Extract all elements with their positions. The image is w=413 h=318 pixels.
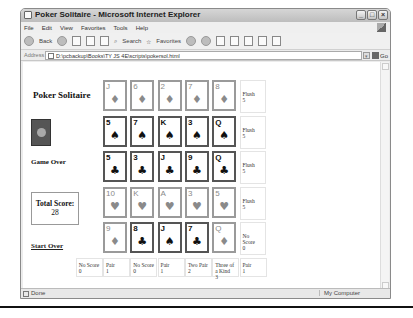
card-r5-c3[interactable]: J♠ [158,222,182,253]
card-r2-c1[interactable]: 5♠ [103,116,127,147]
close-button[interactable]: × [378,10,388,20]
row-score-value: 5 [243,133,263,139]
card-suit-icon: ♠ [132,130,152,141]
card-r2-c4[interactable]: 3♠ [185,116,209,147]
refresh-icon[interactable] [86,36,95,46]
total-score-label: Total Score: [36,199,75,208]
column-score-cell: Pair1 [158,258,185,277]
menu-view[interactable]: View [60,25,73,31]
card-r5-c2[interactable]: 8♣ [130,222,154,253]
card-r5-c4[interactable]: 7♣ [185,222,209,253]
card-r2-c2[interactable]: 7♠ [130,116,154,147]
card-r3-c3[interactable]: J♣ [158,151,182,182]
column-score-cell: Two Pair2 [185,258,212,277]
search-button[interactable]: Search [122,38,141,44]
discuss-icon[interactable] [244,36,253,46]
card-r1-c5[interactable]: 8♦ [212,80,236,111]
column-score-name: Two Pair [188,262,209,268]
menu-bar: File Edit View Favorites Tools Help [21,22,390,33]
card-r1-c3[interactable]: 2♦ [158,80,182,111]
column-score-name: Three of a Kind [215,262,236,274]
card-r4-c1[interactable]: 10♥ [103,187,127,218]
card-r5-c1[interactable]: 9♦ [103,222,127,253]
address-label: Address [24,52,44,58]
card-rank: Q [215,118,221,127]
favorites-icon[interactable]: ☆ [146,38,151,45]
card-rank: 8 [215,82,219,91]
vertical-scrollbar[interactable] [380,62,389,290]
row-score-cell: Flush5 [240,80,266,113]
title-bar[interactable]: Poker Solitaire - Microsoft Internet Exp… [21,9,390,22]
favorites-button[interactable]: Favorites [156,38,181,44]
card-suit-icon: ♥ [214,201,234,212]
card-r4-c4[interactable]: 3♥ [185,187,209,218]
card-r3-c1[interactable]: 5♣ [103,151,127,182]
print-icon[interactable] [216,36,225,46]
address-input[interactable]: D:\pcbackup\Books\TY JS 4E\scripts\poker… [45,51,362,60]
card-r1-c4[interactable]: 7♦ [185,80,209,111]
card-r1-c2[interactable]: 6♦ [130,80,154,111]
column-score-value: 2 [188,268,209,274]
browser-window: Poker Solitaire - Microsoft Internet Exp… [20,8,391,299]
windows-logo-icon [377,23,386,32]
card-suit-icon: ♠ [160,130,180,141]
card-r1-c1[interactable]: J♦ [103,80,127,111]
address-dropdown-icon[interactable]: ▾ [363,52,370,59]
card-rank: 10 [106,189,115,198]
research-icon[interactable] [258,36,267,46]
column-score-cell: Pair1 [240,258,267,277]
column-score-cell: Three of a Kind3 [212,258,239,277]
minimize-button[interactable]: _ [356,10,366,20]
row-score-value: 5 [243,97,263,103]
search-icon[interactable]: ⌕ [114,38,117,45]
forward-icon[interactable] [57,36,67,46]
card-r4-c3[interactable]: A♥ [158,187,182,218]
card-r4-c5[interactable]: 5♥ [212,187,236,218]
status-bar: Done My Computer [21,288,390,298]
divider-line [0,306,413,308]
card-suit-icon: ♠ [214,130,234,141]
row-score-value: 5 [243,204,263,210]
messenger-icon[interactable] [272,36,281,46]
card-r4-c2[interactable]: K♥ [130,187,154,218]
menu-favorites[interactable]: Favorites [81,25,106,31]
total-score-value: 28 [32,208,78,217]
maximize-button[interactable]: □ [367,10,377,20]
start-over-link[interactable]: Start Over [31,242,63,250]
back-button[interactable]: Back [39,38,52,44]
row-score-cell: No Score0 [240,222,266,255]
menu-tools[interactable]: Tools [114,25,128,31]
row-score-cell: Flush5 [240,151,266,184]
security-zone: My Computer [319,290,360,296]
column-score-value: 0 [79,268,100,274]
card-rank: 3 [188,189,192,198]
history-icon[interactable] [186,36,196,46]
go-label: Go [380,53,388,59]
card-rank: 3 [133,153,137,162]
menu-help[interactable]: Help [136,25,148,31]
window-title: Poker Solitaire - Microsoft Internet Exp… [35,10,200,19]
card-r3-c4[interactable]: 9♣ [185,151,209,182]
stop-icon[interactable] [72,36,81,46]
card-suit-icon: ♦ [214,94,234,105]
card-r3-c5[interactable]: Q♣ [212,151,236,182]
card-rank: 5 [215,189,219,198]
row-score-name: No Score [243,233,263,245]
card-r3-c2[interactable]: 3♣ [130,151,154,182]
card-suit-icon: ♣ [132,165,152,176]
card-r5-c5[interactable]: Q♦ [212,222,236,253]
card-r2-c5[interactable]: Q♠ [212,116,236,147]
scroll-up-icon[interactable] [382,63,389,70]
card-r2-c3[interactable]: K♠ [158,116,182,147]
edit-icon[interactable] [230,36,239,46]
mail-icon[interactable] [201,36,211,46]
row-score-cell: Flush5 [240,187,266,220]
home-icon[interactable] [100,36,109,46]
go-button[interactable]: Go [372,52,388,59]
card-rank: J [106,82,110,91]
menu-edit[interactable]: Edit [42,25,52,31]
menu-file[interactable]: File [24,25,34,31]
card-suit-icon: ♦ [132,94,152,105]
card-suit-icon: ♠ [105,130,125,141]
back-icon[interactable] [24,36,34,46]
